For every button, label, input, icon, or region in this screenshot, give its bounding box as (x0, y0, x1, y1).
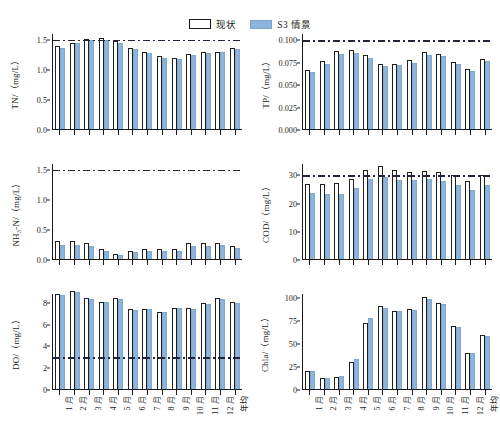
bar-s3 (220, 52, 225, 129)
bar-series-group (53, 164, 242, 259)
bar-group (99, 294, 109, 389)
bar-group (363, 164, 373, 259)
legend-entry-current: 现状 (189, 17, 237, 31)
bar-group (201, 164, 211, 259)
legend-label-current: 现状 (216, 17, 237, 31)
bar-s3 (354, 53, 359, 129)
bar-group (55, 164, 65, 259)
bar-group (186, 294, 196, 389)
bar-group (113, 34, 123, 129)
legend-swatch-s3 (250, 20, 272, 29)
bar-s3 (325, 194, 330, 259)
x-tick-label: 11 月 (459, 395, 470, 415)
bar-s3 (412, 310, 417, 389)
y-tick-label: 100 (285, 293, 297, 302)
bar-s3 (191, 309, 196, 389)
bar-group (422, 294, 432, 389)
bar-s3 (427, 179, 432, 259)
bar-group (215, 34, 225, 129)
bar-s3 (383, 308, 388, 389)
y-tick-label: 1.0 (37, 66, 47, 75)
bar-group (230, 294, 240, 389)
x-tick-label: 12 月 (224, 395, 235, 415)
bar-group (363, 34, 373, 129)
y-tick-mark (47, 390, 50, 391)
bar-group (55, 34, 65, 129)
bar-group (465, 294, 475, 389)
bar-group (113, 164, 123, 259)
bar-s3 (177, 59, 182, 129)
y-tick-mark (297, 231, 300, 232)
y-tick-label: 0.100 (279, 36, 297, 45)
bar-s3 (470, 353, 475, 389)
bar-series-group (303, 34, 492, 129)
bar-group (84, 294, 94, 389)
y-tick-label: 25 (289, 362, 297, 371)
bar-s3 (104, 251, 109, 259)
bar-group (378, 164, 388, 259)
x-axis-labels (52, 135, 242, 161)
x-tick-label: 2 月 (327, 395, 338, 411)
bar-group (305, 294, 315, 389)
x-tick-label: 7 月 (151, 395, 162, 411)
y-tick-mark (297, 343, 300, 344)
bar-group (378, 34, 388, 129)
bar-s3 (75, 245, 80, 259)
y-axis-ticks-nh3-n: 0.00.51.01.5 (20, 164, 50, 260)
reference-line (53, 40, 242, 41)
x-tick-label: 8 月 (165, 395, 176, 411)
y-axis-ticks-chla: 0255075100 (270, 294, 300, 390)
y-tick-label: 0.000 (279, 126, 297, 135)
bar-s3 (354, 188, 359, 259)
y-tick-mark (297, 203, 300, 204)
chart-panel-tp: TP/（mg/L）0.0000.0250.0500.0750.100 (256, 34, 500, 162)
y-tick-mark (47, 70, 50, 71)
bar-s3 (368, 179, 373, 259)
bar-group (334, 164, 344, 259)
y-axis-ticks-cod: 0102030 (270, 164, 300, 260)
chart-legend: 现状 S3 情景 (0, 16, 500, 32)
bar-s3 (206, 304, 211, 389)
bar-group (172, 164, 182, 259)
bar-s3 (339, 194, 344, 260)
plot-area-chla (302, 294, 492, 390)
bar-s3 (220, 245, 225, 259)
bar-group (436, 34, 446, 129)
bar-s3 (470, 71, 475, 129)
bar-s3 (75, 43, 80, 129)
bar-group (320, 294, 330, 389)
bar-s3 (310, 72, 315, 129)
bar-s3 (339, 376, 344, 389)
bar-s3 (89, 246, 94, 259)
bar-s3 (441, 304, 446, 389)
bar-group (349, 294, 359, 389)
y-tick-mark (297, 297, 300, 298)
bar-group (349, 164, 359, 259)
bar-s3 (104, 302, 109, 389)
reference-line (303, 175, 492, 176)
bar-s3 (147, 309, 152, 389)
bar-group (465, 164, 475, 259)
reference-line (53, 170, 242, 171)
y-tick-mark (297, 130, 300, 131)
chart-panel-chla: Chla/（mg/L）02550751001 月2 月3 月4 月5 月6 月7… (256, 294, 500, 422)
y-tick-label: 1.5 (37, 36, 47, 45)
bar-group (186, 164, 196, 259)
bar-group (334, 294, 344, 389)
y-tick-mark (297, 366, 300, 367)
bar-group (215, 294, 225, 389)
bar-s3 (368, 318, 373, 389)
y-axis-ticks-do: 02468 (20, 294, 50, 390)
x-axis-labels (302, 265, 492, 291)
bar-s3 (339, 54, 344, 129)
bar-s3 (118, 43, 123, 129)
y-tick-label: 1.5 (37, 166, 47, 175)
bar-group (201, 294, 211, 389)
bar-group (157, 164, 167, 259)
bar-s3 (397, 311, 402, 389)
bar-group (392, 164, 402, 259)
x-axis-labels: 1 月2 月3 月4 月5 月6 月7 月8 月9 月10 月11 月12 月年… (302, 395, 492, 421)
y-tick-mark (47, 346, 50, 347)
x-tick-label: 3 月 (92, 395, 103, 411)
x-tick-label: 6 月 (386, 395, 397, 411)
